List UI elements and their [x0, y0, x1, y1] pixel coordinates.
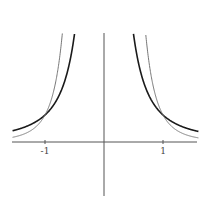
curves: [13, 33, 199, 137]
plot-area: -11: [0, 0, 207, 208]
x-tick-label: -1: [41, 146, 50, 156]
curve-x-pow-neg-2-right: [133, 34, 198, 132]
x-tick-label: 1: [160, 146, 166, 156]
curve-x-pow-neg-2-left: [13, 34, 75, 131]
curve-x-pow-neg-4-left: [13, 33, 63, 137]
